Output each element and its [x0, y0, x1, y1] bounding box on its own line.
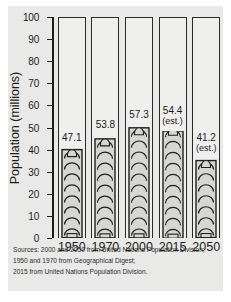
sources-note: Sources: 2000 and 2050 from United Natio… [13, 244, 219, 277]
bar-value-number: 53.8 [96, 119, 115, 130]
bar-value-number: 54.4 [163, 105, 182, 116]
y-axis-title-text: Population (millions) [8, 71, 22, 184]
y-tick-label: 90 [28, 34, 39, 45]
source-line: Sources: 2000 and 2050 from United Natio… [13, 244, 219, 255]
y-axis-title: Population (millions) [6, 17, 24, 238]
bar-column: 57.32000 [125, 17, 153, 238]
y-tick-label: 0 [34, 233, 39, 244]
population-bar-chart-figure: Population (millions) 010203040506070809… [0, 0, 231, 302]
y-tick-label: 40 [28, 144, 39, 155]
y-tick-label: 30 [28, 166, 39, 177]
bar-value-label: 54.4(est.) [162, 105, 183, 127]
bar-column: 54.4(est.)2015 [159, 17, 187, 238]
bar-column: 47.11950 [58, 17, 86, 238]
bar-1950 [61, 147, 83, 238]
y-tick: 30 [47, 172, 52, 173]
bar-value-label: 57.3 [129, 109, 148, 120]
bar-value-label: 53.8 [96, 119, 115, 130]
source-line: 2015 from United Nations Population Divi… [13, 266, 219, 277]
bar-2015 [162, 131, 184, 238]
bar-value-label: 41.2(est.) [196, 132, 217, 154]
bar-2050 [195, 158, 217, 238]
y-tick: 90 [47, 39, 52, 40]
bar-value-label: 47.1 [62, 132, 81, 143]
y-tick: 0 [47, 238, 52, 239]
y-tick-label: 70 [28, 78, 39, 89]
bar-2000 [128, 124, 150, 238]
y-tick: 100 [47, 17, 52, 18]
y-tick-label: 50 [28, 122, 39, 133]
bar-value-estimate-note: (est.) [162, 116, 183, 127]
y-tick: 10 [47, 216, 52, 217]
y-tick: 50 [47, 128, 52, 129]
y-tick-label: 80 [28, 56, 39, 67]
bar-value-number: 47.1 [62, 132, 81, 143]
y-tick-label: 60 [28, 100, 39, 111]
y-tick-label: 20 [28, 188, 39, 199]
bar-1970 [94, 134, 116, 238]
y-tick-label: 10 [28, 210, 39, 221]
y-tick: 60 [47, 105, 52, 106]
bar-column: 53.81970 [91, 17, 119, 238]
bar-value-number: 57.3 [129, 109, 148, 120]
plot-area: 0102030405060708090100 47.1195053.819705… [52, 17, 220, 238]
y-tick: 80 [47, 61, 52, 62]
bar-value-estimate-note: (est.) [196, 143, 217, 154]
y-tick: 20 [47, 194, 52, 195]
y-tick: 40 [47, 150, 52, 151]
y-tick-label: 100 [23, 12, 39, 23]
y-axis-line [52, 17, 54, 238]
source-line: 1950 and 1970 from Geographical Digest; [13, 255, 219, 266]
bar-value-number: 41.2 [196, 132, 215, 143]
y-tick: 70 [47, 83, 52, 84]
bar-column: 41.2(est.)2050 [192, 17, 220, 238]
